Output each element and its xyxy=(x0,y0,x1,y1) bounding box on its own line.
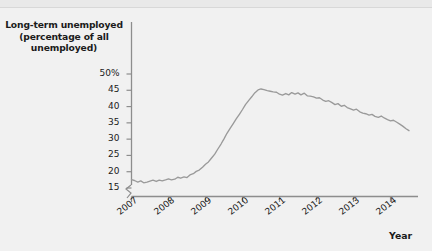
y-axis-tick-label: 45 xyxy=(90,84,120,94)
chart-figure: Long-term unemployed (percentage of all … xyxy=(0,0,432,251)
y-axis-ticks xyxy=(127,74,132,188)
x-axis-title: Year xyxy=(389,230,412,241)
y-axis-tick-label: 30 xyxy=(90,133,120,143)
y-axis-tick-label: 50% xyxy=(90,68,120,78)
y-axis-tick-label: 40 xyxy=(90,101,120,111)
y-axis-tick-label: 20 xyxy=(90,166,120,176)
y-axis-tick-label: 35 xyxy=(90,117,120,127)
axes-group xyxy=(126,22,418,198)
data-series-line xyxy=(132,89,410,183)
y-axis-tick-label: 25 xyxy=(90,149,120,159)
plot-area xyxy=(0,0,432,251)
y-axis-tick-label: 15 xyxy=(90,182,120,192)
